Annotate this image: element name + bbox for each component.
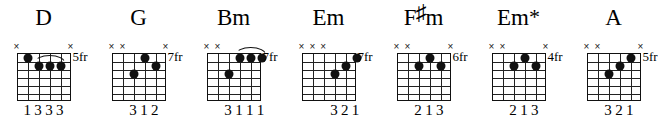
fret-line	[113, 86, 165, 87]
muted-strings-row: ×××	[492, 42, 546, 53]
fretboard-diagram: ×××5fr321	[587, 42, 641, 123]
finger-number: 3	[436, 103, 444, 118]
fret-line	[588, 94, 640, 95]
finger-number: 3	[56, 103, 64, 118]
mute-marker-icon: ×	[309, 42, 315, 52]
finger-number: 2	[414, 103, 422, 118]
asterisk-icon: *	[529, 4, 540, 29]
finger-dot	[235, 54, 244, 63]
fret-position-label: 7fr	[263, 50, 278, 63]
fret-grid	[17, 53, 71, 101]
muted-strings-row: ××	[17, 42, 71, 53]
finger-dot	[45, 62, 54, 71]
finger-number: 2	[509, 103, 517, 118]
finger-dot	[130, 70, 139, 79]
fret-line	[208, 86, 260, 87]
fingering-row: 321	[587, 103, 641, 123]
muted-strings-row: ×××	[587, 42, 641, 53]
fingering-row: 312	[112, 103, 166, 123]
chord-name-base: Em	[313, 5, 345, 30]
fret-position-label: 6fr	[453, 50, 468, 63]
chord-diagram: F♯m×××6fr213	[384, 0, 463, 135]
fret-line	[113, 94, 165, 95]
sharp-icon: ♯	[415, 0, 426, 25]
fret-line	[588, 78, 640, 79]
mute-marker-icon: ×	[394, 42, 400, 52]
chord-name: A	[605, 6, 622, 36]
finger-number: 1	[425, 103, 433, 118]
finger-dot	[531, 62, 540, 71]
finger-dot	[436, 62, 445, 71]
finger-number: 3	[45, 103, 53, 118]
finger-number: 1	[140, 103, 148, 118]
fret-position-label: 5fr	[643, 50, 658, 63]
fretboard-diagram: ×××4fr213	[492, 42, 546, 123]
fretboard-diagram: ××5fr1333	[17, 42, 71, 123]
muted-strings-row: ×××	[112, 42, 166, 53]
fret-line	[113, 78, 165, 79]
chord-name-base: G	[130, 5, 147, 30]
finger-dot	[246, 54, 255, 63]
muted-strings-row: ×××	[397, 42, 451, 53]
fret-line	[18, 94, 70, 95]
chord-name-base: A	[605, 5, 622, 30]
fret-grid	[302, 53, 356, 101]
chord-diagram: D××5fr1333	[4, 0, 83, 135]
fret-grid	[492, 53, 546, 101]
finger-number: 2	[341, 103, 349, 118]
finger-dot	[56, 62, 65, 71]
muted-strings-row: ×××	[302, 42, 356, 53]
mute-marker-icon: ×	[499, 42, 505, 52]
finger-number: 1	[626, 103, 634, 118]
chord-diagram: Em*×××4fr213	[479, 0, 558, 135]
fret-position-label: 7fr	[358, 50, 373, 63]
fret-line	[303, 78, 355, 79]
fret-line	[303, 94, 355, 95]
fingering-row: 213	[397, 103, 451, 123]
fret-line	[398, 86, 450, 87]
finger-number: 1	[257, 103, 265, 118]
chord-name: Bm	[217, 6, 250, 36]
fingering-row: 321	[302, 103, 356, 123]
mute-marker-icon: ×	[299, 42, 305, 52]
finger-number: 1	[520, 103, 528, 118]
fret-position-label: 5fr	[73, 50, 88, 63]
chord-diagram: A×××5fr321	[574, 0, 653, 135]
chord-diagram: Bm××7fr3111	[194, 0, 273, 135]
fret-line	[493, 78, 545, 79]
mute-marker-icon: ×	[584, 42, 590, 52]
fret-line	[493, 94, 545, 95]
finger-number: 2	[151, 103, 159, 118]
fret-line	[208, 94, 260, 95]
finger-dot	[341, 62, 350, 71]
fret-position-label: 7fr	[168, 50, 183, 63]
mute-marker-icon: ×	[404, 42, 410, 52]
chord-name-base: D	[35, 5, 52, 30]
chord-name: D	[35, 6, 52, 36]
finger-dot	[225, 70, 234, 79]
finger-number: 1	[24, 103, 32, 118]
finger-dot	[24, 54, 33, 63]
fret-line	[208, 78, 260, 79]
finger-dot	[151, 62, 160, 71]
finger-number: 3	[330, 103, 338, 118]
fret-line	[18, 86, 70, 87]
mute-marker-icon: ×	[320, 42, 326, 52]
finger-dot	[510, 62, 519, 71]
finger-dot	[415, 62, 424, 71]
mute-marker-icon: ×	[489, 42, 495, 52]
finger-number: 2	[615, 103, 623, 118]
finger-number: 1	[352, 103, 360, 118]
fretboard-diagram: ×××7fr312	[112, 42, 166, 123]
chord-diagram: G×××7fr312	[99, 0, 178, 135]
finger-number: 1	[235, 103, 243, 118]
chord-name-base: Bm	[217, 5, 250, 30]
finger-dot	[520, 54, 529, 63]
fret-grid	[397, 53, 451, 101]
fret-line	[493, 86, 545, 87]
chord-diagram: Em×××7fr321	[289, 0, 368, 135]
finger-number: 3	[224, 103, 232, 118]
fingering-row: 213	[492, 103, 546, 123]
fret-position-label: 4fr	[548, 50, 563, 63]
